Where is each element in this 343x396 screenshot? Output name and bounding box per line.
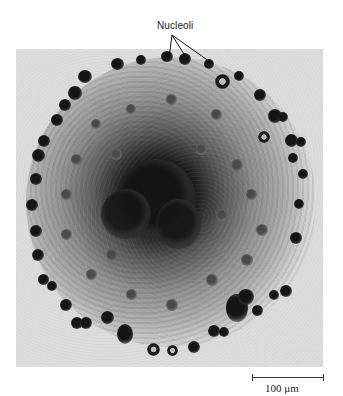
nucleolus (290, 232, 302, 244)
nucleolus (32, 149, 45, 162)
nucleolus (269, 290, 279, 300)
nucleolus-cluster (101, 189, 151, 239)
nucleolus (111, 149, 122, 160)
nucleolus (216, 209, 228, 221)
scale-bar-label: 100 μm (265, 382, 299, 394)
nucleolus-cluster (156, 199, 201, 249)
micrograph-image (16, 49, 323, 367)
nucleolus (136, 55, 146, 65)
nucleolus (179, 53, 191, 65)
nucleolus (106, 249, 118, 261)
nucleolus (278, 112, 288, 122)
nucleoli-label: Nucleoli (157, 20, 193, 31)
nucleolus (161, 51, 173, 62)
nucleolus (231, 159, 243, 171)
nucleolus (68, 86, 82, 100)
nucleolus (59, 99, 71, 111)
nucleolus (167, 345, 178, 356)
nucleolus (219, 327, 229, 337)
nucleolus (288, 153, 298, 163)
nucleolus (30, 173, 42, 185)
nucleolus (111, 58, 124, 70)
nucleolus (101, 311, 114, 324)
nucleolus (47, 281, 57, 291)
nucleolus (211, 109, 222, 120)
nucleolus (38, 135, 50, 147)
nucleolus (204, 59, 214, 69)
nucleolus (296, 137, 306, 147)
nucleolus (280, 285, 292, 297)
nucleolus (238, 289, 254, 305)
nucleolus (196, 144, 207, 155)
nucleolus (126, 104, 136, 114)
nucleolus (30, 225, 42, 237)
nucleolus (147, 343, 160, 356)
nucleolus (241, 254, 253, 266)
nucleolus (91, 119, 101, 129)
nucleolus (298, 169, 308, 179)
nucleolus (60, 299, 72, 311)
nucleolus (256, 224, 268, 236)
scale-bar: 100 μm (252, 374, 324, 394)
nucleolus (234, 71, 244, 81)
nucleolus (258, 131, 270, 143)
nucleolus (61, 229, 72, 240)
nucleolus (188, 341, 200, 353)
nucleolus (294, 199, 304, 209)
micrograph-figure: Nucleoli (0, 0, 343, 396)
nucleolus (26, 199, 38, 211)
nucleolus (254, 89, 266, 101)
nucleolus (32, 249, 44, 261)
nucleolus (206, 274, 218, 286)
nucleolus (117, 324, 133, 344)
nucleolus (71, 154, 82, 165)
nucleolus (78, 70, 92, 83)
nucleolus (86, 269, 97, 280)
nucleolus (215, 74, 230, 89)
nucleolus (126, 289, 137, 300)
scale-bar-line (252, 374, 324, 381)
nucleolus (246, 189, 257, 200)
nucleolus (166, 94, 177, 105)
nucleolus (80, 317, 92, 329)
nucleolus (51, 114, 63, 126)
nucleolus (61, 189, 72, 200)
nucleolus (252, 305, 263, 316)
nucleolus (166, 299, 178, 311)
